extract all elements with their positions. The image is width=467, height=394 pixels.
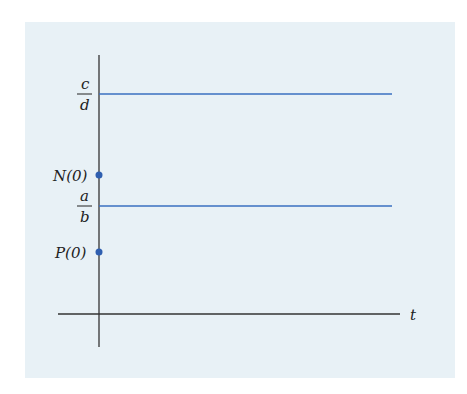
level-a-numerator: a	[80, 187, 89, 205]
p0-label: P(0)	[54, 244, 86, 262]
n0-label: N(0)	[52, 167, 88, 185]
level-c-numerator: c	[81, 75, 90, 93]
level-b-denominator: b	[80, 208, 90, 226]
point-p0	[96, 249, 103, 256]
level-d-denominator: d	[80, 96, 90, 114]
diagram-svg: t c d N(0) a b P(0)	[0, 0, 467, 394]
point-n0	[96, 172, 103, 179]
t-axis-label: t	[410, 306, 417, 324]
